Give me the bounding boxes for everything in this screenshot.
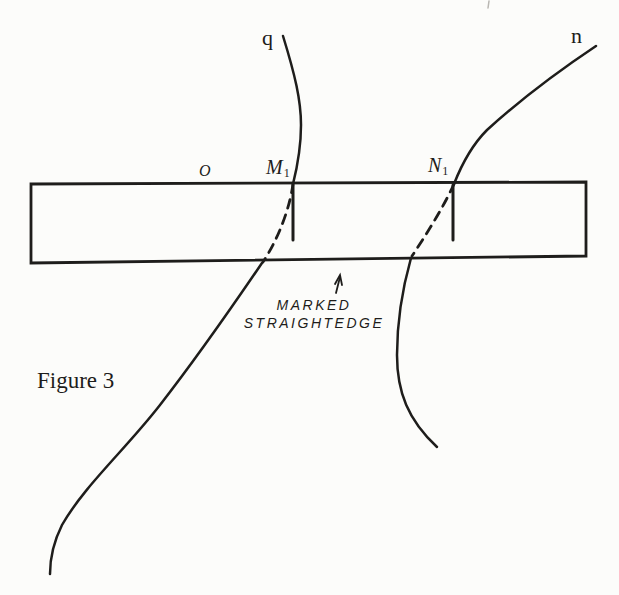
curve-q-dashed bbox=[263, 184, 293, 262]
point-o-label: O bbox=[199, 163, 211, 179]
point-n1-subscript: 1 bbox=[442, 164, 448, 178]
point-m1-subscript: 1 bbox=[284, 166, 290, 180]
curve-n-label: n bbox=[571, 25, 582, 47]
scanned-book-figure: q n O M1 N1 MARKED STRAIGHTEDGE Figure 3 bbox=[0, 0, 619, 595]
figure-caption: Figure 3 bbox=[37, 368, 114, 394]
point-n1-label: N1 bbox=[428, 155, 447, 175]
marked-straightedge-annotation: MARKED STRAIGHTEDGE bbox=[214, 296, 414, 332]
scan-speck bbox=[488, 1, 489, 8]
point-m1-base: M bbox=[266, 156, 283, 178]
annotation-line-1: MARKED bbox=[214, 296, 414, 314]
curve-q-label: q bbox=[262, 27, 273, 49]
curve-n-upper bbox=[454, 46, 596, 184]
straightedge-rectangle bbox=[31, 182, 586, 263]
curve-n-lower bbox=[397, 258, 437, 447]
point-n1-base: N bbox=[428, 154, 441, 176]
annotation-line-2: STRAIGHTEDGE bbox=[214, 314, 414, 332]
curve-n-dashed bbox=[412, 184, 454, 256]
point-m1-label: M1 bbox=[266, 157, 289, 177]
up-arrow-icon bbox=[335, 275, 342, 293]
